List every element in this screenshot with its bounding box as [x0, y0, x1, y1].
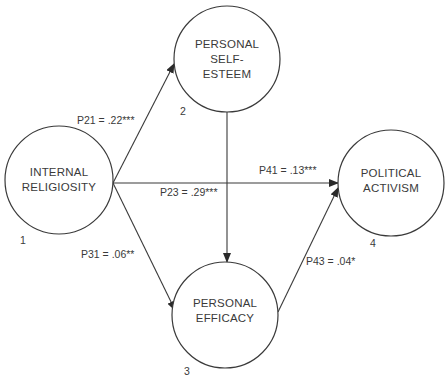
node-number: 4 — [370, 237, 376, 249]
node-label-line: SELF- — [210, 53, 244, 65]
node-label-line: PERSONAL — [195, 38, 260, 50]
node-political-activism: POLITICAL ACTIVISM 4 — [338, 130, 444, 249]
node-label-line: POLITICAL — [361, 167, 422, 179]
node-personal-self-esteem: PERSONAL SELF- ESTEEM 2 — [174, 6, 280, 117]
node-label-line: RELIGIOSITY — [22, 181, 97, 193]
coefficient-label-p31: P31 = .06** — [81, 248, 134, 260]
node-personal-efficacy: PERSONAL EFFICACY 3 — [172, 262, 278, 377]
path-arrow-p31 — [113, 183, 175, 310]
node-label-line: ESTEEM — [203, 68, 252, 80]
node-number: 2 — [180, 105, 186, 117]
coefficient-label-p41: P41 = .13*** — [259, 164, 317, 176]
path-arrow-p43 — [278, 188, 338, 312]
node-number: 3 — [184, 365, 190, 377]
coefficient-label-p21: P21 = .22*** — [77, 114, 135, 126]
coefficient-label-p43: P43 = .04* — [306, 255, 355, 267]
node-label-line: INTERNAL — [30, 166, 89, 178]
node-label-line: PERSONAL — [193, 297, 258, 309]
node-label-line: EFFICACY — [196, 312, 255, 324]
path-diagram: INTERNAL RELIGIOSITY 1 PERSONAL SELF- ES… — [0, 0, 448, 379]
coefficient-label-p23: P23 = .29*** — [160, 186, 218, 198]
node-internal-religiosity: INTERNAL RELIGIOSITY 1 — [5, 126, 113, 246]
node-number: 1 — [20, 234, 26, 246]
node-label-line: ACTIVISM — [363, 182, 419, 194]
